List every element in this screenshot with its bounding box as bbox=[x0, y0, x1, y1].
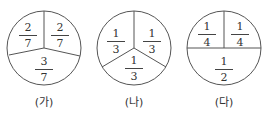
denominator: 7 bbox=[18, 38, 38, 49]
fraction-bar bbox=[19, 35, 37, 36]
fraction-ga-right: 2 7 bbox=[50, 22, 70, 49]
fraction-bar bbox=[198, 34, 216, 35]
fraction-da-bottom: 1 2 bbox=[214, 56, 234, 83]
fraction-bar bbox=[215, 69, 233, 70]
denominator: 3 bbox=[142, 44, 162, 55]
denominator: 7 bbox=[34, 72, 54, 83]
denominator: 4 bbox=[230, 37, 250, 48]
fraction-ga-left: 2 7 bbox=[18, 22, 38, 49]
fraction-na-right: 1 3 bbox=[142, 28, 162, 55]
denominator: 3 bbox=[106, 44, 126, 55]
fraction-bar bbox=[143, 41, 161, 42]
numerator: 1 bbox=[106, 28, 126, 39]
numerator: 1 bbox=[124, 55, 144, 66]
caption-da: (다) bbox=[215, 93, 234, 109]
numerator: 1 bbox=[214, 56, 234, 67]
fraction-na-bottom: 1 3 bbox=[124, 55, 144, 82]
fraction-na-left: 1 3 bbox=[106, 28, 126, 55]
fraction-da-right: 1 4 bbox=[230, 21, 250, 48]
numerator: 3 bbox=[34, 56, 54, 67]
denominator: 2 bbox=[214, 72, 234, 83]
denominator: 3 bbox=[124, 71, 144, 82]
fraction-bar bbox=[231, 34, 249, 35]
numerator: 1 bbox=[230, 21, 250, 32]
numerator: 1 bbox=[142, 28, 162, 39]
numerator: 2 bbox=[50, 22, 70, 33]
denominator: 4 bbox=[197, 37, 217, 48]
numerator: 2 bbox=[18, 22, 38, 33]
fraction-ga-bottom: 3 7 bbox=[34, 56, 54, 83]
fraction-bar bbox=[107, 41, 125, 42]
numerator: 1 bbox=[197, 21, 217, 32]
fraction-bar bbox=[125, 68, 143, 69]
fraction-bar bbox=[35, 69, 53, 70]
fraction-bar bbox=[51, 35, 69, 36]
caption-ga: (가) bbox=[35, 93, 54, 109]
caption-na: (나) bbox=[125, 93, 144, 109]
denominator: 7 bbox=[50, 38, 70, 49]
fraction-da-left: 1 4 bbox=[197, 21, 217, 48]
